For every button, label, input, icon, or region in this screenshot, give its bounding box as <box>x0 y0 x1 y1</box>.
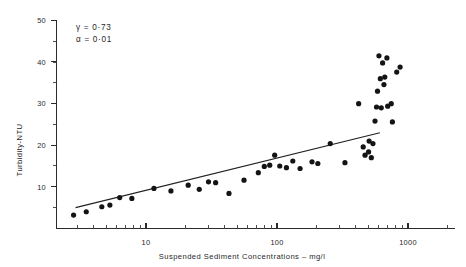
annotation-alpha: α = 0·01 <box>76 35 112 44</box>
x-tick-label-100: 100 <box>270 238 283 247</box>
x-tick-label-10: 10 <box>142 238 151 247</box>
data-point <box>129 196 134 201</box>
annotation-gamma: γ = 0·73 <box>76 23 111 32</box>
y-tick-label-20: 20 <box>37 141 46 150</box>
data-point-group <box>71 53 403 217</box>
data-point <box>361 144 366 149</box>
data-point <box>394 69 399 74</box>
data-point <box>397 64 402 69</box>
data-point <box>378 76 383 81</box>
x-axis-title: Suspended Sediment Concentrations – mg/l <box>159 252 326 261</box>
data-point <box>369 155 374 160</box>
data-point <box>381 82 386 87</box>
y-tick-label-30: 30 <box>37 99 46 108</box>
data-point <box>380 60 385 65</box>
data-point <box>226 191 231 196</box>
data-point <box>290 158 295 163</box>
data-point <box>390 119 395 124</box>
y-tick-label-10: 10 <box>37 183 46 192</box>
data-point <box>342 160 347 165</box>
data-point <box>277 163 282 168</box>
data-point <box>197 187 202 192</box>
data-point <box>272 153 277 158</box>
plot-canvas: 50 40 30 20 10 Turbidity-NTU 10 100 1000… <box>0 0 466 267</box>
data-point <box>297 166 302 171</box>
data-point <box>206 179 211 184</box>
data-point <box>315 161 320 166</box>
data-point <box>267 163 272 168</box>
y-tick-label-40: 40 <box>37 58 46 67</box>
y-tick-group <box>51 21 57 208</box>
y-tick-label-50: 50 <box>37 16 46 25</box>
data-point <box>256 170 261 175</box>
data-point <box>382 74 387 79</box>
x-tick-label-1000: 1000 <box>399 238 417 247</box>
data-point <box>117 195 122 200</box>
data-point <box>356 101 361 106</box>
data-point <box>372 119 377 124</box>
data-point <box>389 101 394 106</box>
data-point <box>241 178 246 183</box>
data-point <box>99 204 104 209</box>
x-tick-group <box>78 223 448 229</box>
data-point <box>375 89 380 94</box>
data-point <box>84 209 89 214</box>
data-point <box>328 141 333 146</box>
data-point <box>366 149 371 154</box>
data-point <box>384 55 389 60</box>
data-point <box>374 104 379 109</box>
data-point <box>213 180 218 185</box>
data-point <box>151 186 156 191</box>
data-point <box>107 202 112 207</box>
data-point <box>262 164 267 169</box>
data-point <box>168 188 173 193</box>
y-axis-title: Turbidity-NTU <box>15 124 24 177</box>
data-point <box>284 165 289 170</box>
data-point <box>370 141 375 146</box>
data-point <box>376 53 381 58</box>
data-point <box>186 183 191 188</box>
data-point <box>71 212 76 217</box>
scatter-plot-figure: 50 40 30 20 10 Turbidity-NTU 10 100 1000… <box>0 0 466 267</box>
data-point <box>309 159 314 164</box>
data-point <box>379 105 384 110</box>
